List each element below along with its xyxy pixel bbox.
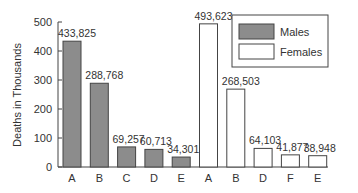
y-tick-label: 0 — [46, 161, 52, 173]
bar-males-C — [118, 147, 136, 167]
x-tick-label: E — [314, 172, 321, 184]
x-tick-label: E — [178, 172, 185, 184]
x-tick-label: D — [150, 172, 158, 184]
x-tick-label: D — [259, 172, 267, 184]
bar-females-F — [281, 155, 299, 167]
y-tick-label: 100 — [34, 132, 52, 144]
y-tick-label: 500 — [34, 16, 52, 28]
bar-females-A — [200, 24, 218, 167]
legend-label-males: Males — [280, 26, 310, 38]
bar-value-label: 493,623 — [195, 10, 233, 22]
bar-females-D — [254, 148, 272, 167]
bar-males-B — [90, 83, 108, 167]
x-tick-label: C — [123, 172, 131, 184]
x-tick-label: B — [232, 172, 239, 184]
y-tick-label: 400 — [34, 45, 52, 57]
bar-value-label: 34,301 — [167, 143, 199, 155]
legend-swatch-females — [239, 44, 274, 59]
bar-value-label: 288,768 — [85, 69, 123, 81]
x-tick-label: F — [287, 172, 294, 184]
y-tick-label: 200 — [34, 103, 52, 115]
legend-swatch-males — [239, 24, 274, 39]
y-axis-label: Deaths in Thousands — [11, 43, 23, 147]
y-tick-label: 300 — [34, 74, 52, 86]
bar-males-A — [63, 41, 81, 167]
legend-label-females: Females — [280, 46, 323, 58]
bar-females-E — [309, 156, 327, 167]
bar-value-label: 38,948 — [304, 142, 336, 154]
x-tick-label: A — [205, 172, 213, 184]
bar-males-E — [172, 157, 190, 167]
x-tick-label: B — [96, 172, 103, 184]
bar-females-B — [227, 89, 245, 167]
x-tick-label: A — [68, 172, 76, 184]
bar-males-D — [145, 149, 163, 167]
legend: MalesFemales — [232, 15, 328, 67]
bar-value-label: 433,825 — [58, 27, 96, 39]
bar-value-label: 268,503 — [222, 75, 260, 87]
bar-chart: 0100200300400500Deaths in Thousands 433,… — [0, 0, 358, 193]
